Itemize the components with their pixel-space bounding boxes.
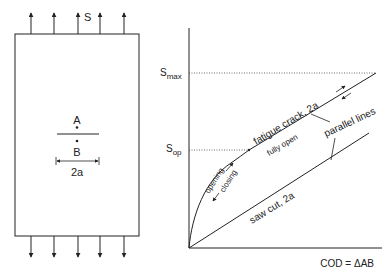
sop-point [248, 149, 250, 151]
smax-tick-label: Smax [160, 67, 182, 81]
loading-arrow [336, 86, 345, 92]
crack-length-dimension [56, 157, 99, 165]
closing-arrow [213, 193, 219, 201]
parallel-leader-lower [331, 138, 335, 160]
fatigue-crack-curve [189, 73, 376, 248]
sop-tick-label: Sop [166, 143, 182, 157]
point-b-dot [76, 140, 79, 143]
parallel-lines-label: parallel lines [322, 105, 377, 138]
diagram-canvas: S A B 2a Smax Sop fatigue crack, 2a full… [0, 0, 392, 274]
x-axis-label: COD = ΔAB [320, 258, 374, 269]
load-label: S [84, 11, 91, 23]
bottom-load-arrows [31, 236, 124, 257]
point-b-label: B [73, 146, 80, 158]
parallel-leader-upper [311, 114, 330, 122]
specimen-plate [15, 34, 139, 236]
top-load-arrows [31, 13, 124, 34]
point-a-dot [76, 126, 79, 129]
crack-length-label: 2a [71, 166, 84, 178]
point-a-label: A [73, 114, 81, 126]
unloading-arrow [342, 93, 351, 99]
